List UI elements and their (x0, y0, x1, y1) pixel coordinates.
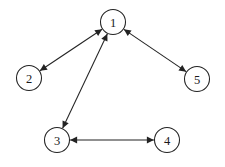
node-circle-4[interactable] (155, 128, 180, 153)
node-circle-5[interactable] (185, 67, 210, 92)
edge-1-5 (124, 29, 186, 71)
graph-node-2[interactable]: 2 (17, 66, 42, 91)
graph-node-3[interactable]: 3 (45, 128, 70, 153)
edges-layer (40, 29, 186, 143)
graph-canvas: 12345 (0, 0, 225, 167)
graph-diagram: 12345 (0, 0, 225, 167)
node-circle-2[interactable] (17, 66, 42, 91)
nodes-layer: 12345 (17, 10, 210, 153)
graph-node-1[interactable]: 1 (101, 10, 126, 35)
edge-1-3 (63, 34, 108, 128)
graph-node-4[interactable]: 4 (155, 128, 180, 153)
edge-3-4 (70, 137, 154, 144)
graph-node-5[interactable]: 5 (185, 67, 210, 92)
node-circle-1[interactable] (101, 10, 126, 35)
node-circle-3[interactable] (45, 128, 70, 153)
